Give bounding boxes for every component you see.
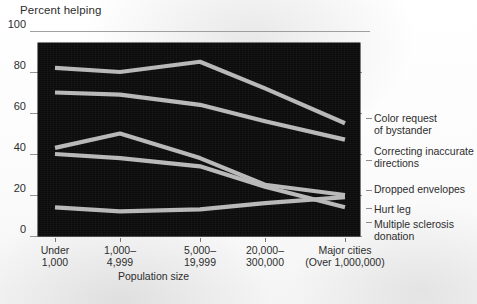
y-tick-label-0: 0 xyxy=(0,223,26,235)
plot-area xyxy=(38,43,360,236)
x-tick-2 xyxy=(200,238,201,242)
legend: Color request of bystanderCorrecting ina… xyxy=(366,0,477,304)
x-tick-3 xyxy=(265,238,266,242)
legend-leader-1 xyxy=(366,160,372,161)
gridline-0 xyxy=(30,236,362,237)
y-tick-label-40: 40 xyxy=(0,141,26,153)
x-axis-title: Population size xyxy=(118,270,189,282)
series-line-4 xyxy=(55,197,345,211)
gridline-100 xyxy=(30,31,370,32)
x-tick-0 xyxy=(55,238,56,242)
y-tick-label-60: 60 xyxy=(0,100,26,112)
y-axis-title: Percent helping xyxy=(20,4,101,16)
legend-leader-4 xyxy=(366,222,372,223)
legend-item-0: Color request of bystander xyxy=(374,113,437,136)
series-lines xyxy=(38,43,360,236)
legend-item-4: Multiple sclerosis donation xyxy=(374,219,454,242)
y-tick-label-20: 20 xyxy=(0,182,26,194)
legend-leader-2 xyxy=(366,190,372,191)
series-line-1 xyxy=(55,93,345,140)
x-tick-1 xyxy=(120,238,121,242)
legend-leader-3 xyxy=(366,208,372,209)
legend-item-3: Hurt leg xyxy=(374,204,411,216)
legend-item-1: Correcting inaccurate directions xyxy=(374,146,474,169)
chart-figure: Percent helping 020406080100 Under 1,000… xyxy=(0,0,477,304)
y-tick-label-100: 100 xyxy=(0,18,26,30)
legend-leader-0 xyxy=(366,118,372,119)
x-tick-4 xyxy=(345,238,346,242)
y-tick-label-80: 80 xyxy=(0,59,26,71)
legend-item-2: Dropped envelopes xyxy=(374,184,465,196)
